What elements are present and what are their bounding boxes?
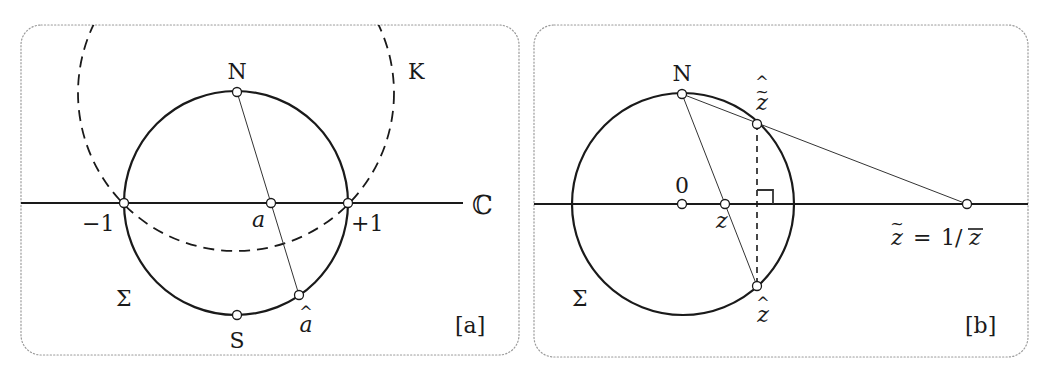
south-pole-point: [233, 311, 242, 320]
stereographic-projection-figure: N K −1 +1 a ℂ Σ S ^ a [a] N: [0, 0, 1038, 372]
projection-line: [237, 92, 299, 295]
svg-text:z: z: [890, 225, 903, 250]
point-z-tilde-hat: [753, 120, 762, 129]
label-north: N: [672, 61, 691, 86]
projection-line-z: [682, 94, 757, 286]
label-origin: 0: [675, 173, 689, 198]
panel-b: N ^ ~ z 0 z ~ z = 1/ z Σ ^ z [b]: [534, 25, 1028, 357]
label-inverse: ~ z = 1/ z: [890, 214, 983, 250]
svg-text:=: =: [913, 225, 931, 250]
point-a-hat: [295, 291, 304, 300]
label-north: N: [227, 59, 246, 84]
label-complex-plane: ℂ: [472, 190, 493, 220]
svg-text:1/: 1/: [941, 225, 963, 250]
label-a-hat: ^ a: [299, 303, 312, 337]
panel-b-frame: [534, 25, 1028, 357]
svg-text:a: a: [299, 312, 312, 337]
label-k: K: [408, 59, 425, 84]
label-sigma: Σ: [572, 286, 588, 311]
panel-a-tag: [a]: [455, 313, 485, 338]
point-z-tilde: [963, 200, 972, 209]
north-pole-point: [678, 90, 687, 99]
panel-a: N K −1 +1 a ℂ Σ S ^ a [a]: [21, 0, 519, 355]
plus-one-point: [344, 199, 353, 208]
point-a: [267, 199, 276, 208]
north-pole-point: [233, 88, 242, 97]
label-south: S: [229, 328, 244, 353]
panel-b-tag: [b]: [965, 313, 996, 338]
right-angle-mark: [757, 190, 773, 204]
label-minus-one: −1: [82, 211, 114, 236]
svg-text:z: z: [968, 225, 981, 250]
label-z-hat: ^ z: [756, 294, 770, 327]
label-z-tilde-hat: ^ ~ z: [755, 73, 769, 115]
svg-text:z: z: [755, 90, 768, 115]
svg-text:z: z: [756, 302, 769, 327]
label-sigma: Σ: [116, 286, 132, 311]
label-plus-one: +1: [351, 211, 383, 236]
point-z-hat: [753, 282, 762, 291]
panel-a-frame: [21, 25, 519, 355]
label-a: a: [252, 207, 265, 232]
minus-one-point: [120, 199, 129, 208]
projection-line-z-tilde: [682, 94, 967, 204]
label-z: z: [715, 208, 728, 233]
origin-point: [678, 200, 687, 209]
